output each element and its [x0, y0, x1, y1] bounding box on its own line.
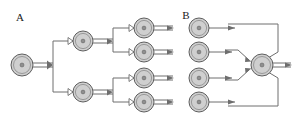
- edge-b-src-3-to-merge: [209, 68, 252, 81]
- edge-bus-to-leaf-4: [113, 99, 134, 106]
- node-a-leaf-4[interactable]: [134, 92, 154, 112]
- edge-leaf-3-output: [154, 76, 174, 81]
- edge-b-src-4-to-merge: [209, 71, 278, 107]
- node-b-src-3[interactable]: [189, 68, 209, 88]
- edge-mid-1-to-bus: [93, 39, 113, 45]
- node-diagram-canvas: A: [0, 0, 299, 123]
- node-a-mid-2[interactable]: [73, 82, 93, 102]
- edge-bus-to-leaf-2: [113, 49, 134, 56]
- edge-leaf-1-output: [154, 26, 174, 31]
- edge-b-merge-output: [273, 63, 292, 68]
- node-b-merge[interactable]: [251, 54, 273, 76]
- panel-b-label: B: [182, 9, 189, 21]
- edge-root-to-split: [33, 61, 53, 70]
- edge-split-to-mid-1: [53, 38, 73, 45]
- node-a-mid-1[interactable]: [73, 31, 93, 51]
- node-a-leaf-2[interactable]: [134, 42, 154, 62]
- panel-b: B: [182, 9, 292, 112]
- node-a-root[interactable]: [11, 54, 33, 76]
- edge-mid-2-to-bus: [93, 90, 113, 96]
- panel-a: A: [11, 11, 174, 112]
- panel-a-edges: [33, 25, 174, 106]
- node-a-leaf-3[interactable]: [134, 68, 154, 88]
- edge-b-src-2-to-merge: [209, 50, 252, 63]
- figure-root: A: [0, 0, 299, 123]
- edge-b-src-1-to-merge: [209, 24, 278, 60]
- edge-split-to-mid-2: [53, 89, 73, 96]
- edge-bus-to-leaf-3: [113, 75, 134, 82]
- node-b-src-2[interactable]: [189, 42, 209, 62]
- node-b-src-1[interactable]: [189, 18, 209, 38]
- node-a-leaf-1[interactable]: [134, 18, 154, 38]
- panel-a-label: A: [16, 11, 24, 23]
- edge-leaf-2-output: [154, 50, 174, 55]
- edge-leaf-4-output: [154, 100, 174, 105]
- node-b-src-4[interactable]: [189, 92, 209, 112]
- edge-bus-to-leaf-1: [113, 25, 134, 32]
